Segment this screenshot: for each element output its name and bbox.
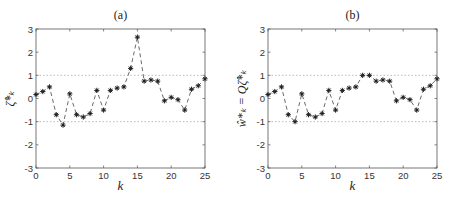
y-tick-label: 1 bbox=[28, 70, 33, 81]
x-tick-label: 10 bbox=[98, 170, 109, 181]
data-point-marker bbox=[333, 107, 338, 112]
figure: 05101520253210-1-2-3(a)kζ̂*ₖ051015202532… bbox=[0, 0, 455, 197]
data-point-marker bbox=[128, 66, 133, 71]
data-point-marker bbox=[340, 88, 345, 93]
y-tick-label: 0 bbox=[28, 93, 33, 104]
data-point-marker bbox=[155, 79, 160, 84]
y-axis-label: ŵ*ₖ = Qζ̂*ₖ bbox=[235, 69, 249, 128]
data-point-marker bbox=[47, 84, 52, 89]
data-point-marker bbox=[162, 98, 167, 103]
x-tick-label: 0 bbox=[265, 170, 270, 181]
data-point-marker bbox=[387, 79, 392, 84]
x-tick-label: 15 bbox=[364, 170, 375, 181]
y-axis-label: ζ̂*ₖ bbox=[3, 90, 17, 107]
chart-title: (b) bbox=[346, 8, 360, 22]
data-point-marker bbox=[135, 35, 140, 40]
data-point-marker bbox=[87, 111, 92, 116]
data-line bbox=[36, 37, 205, 125]
data-point-marker bbox=[115, 85, 120, 90]
data-point-marker bbox=[319, 111, 324, 116]
plot-a: 05101520253210-1-2-3(a)kζ̂*ₖ bbox=[3, 8, 210, 193]
x-tick-label: 5 bbox=[67, 170, 72, 181]
data-point-marker bbox=[306, 112, 311, 117]
x-axis-label: k bbox=[350, 178, 356, 193]
data-point-marker bbox=[394, 98, 399, 103]
data-point-marker bbox=[169, 95, 174, 100]
x-axis-label: k bbox=[118, 178, 124, 193]
y-tick-label: 3 bbox=[28, 24, 33, 35]
y-tick-label: -2 bbox=[257, 139, 265, 150]
data-point-marker bbox=[421, 87, 426, 92]
data-point-marker bbox=[67, 91, 72, 96]
x-tick-label: 25 bbox=[432, 170, 443, 181]
data-point-marker bbox=[326, 88, 331, 93]
data-point-marker bbox=[60, 123, 65, 128]
data-point-marker bbox=[272, 89, 277, 94]
x-tick-label: 20 bbox=[166, 170, 177, 181]
chart-title: (a) bbox=[114, 8, 127, 22]
data-point-marker bbox=[148, 77, 153, 82]
y-tick-label: -1 bbox=[257, 116, 265, 127]
data-point-marker bbox=[182, 107, 187, 112]
y-tick-label: -3 bbox=[257, 163, 265, 174]
plot-b: 05101520253210-1-2-3(b)kŵ*ₖ = Qζ̂*ₖ bbox=[235, 8, 442, 193]
data-point-marker bbox=[74, 112, 79, 117]
data-point-marker bbox=[292, 119, 297, 124]
data-point-marker bbox=[33, 92, 38, 97]
x-tick-label: 15 bbox=[132, 170, 143, 181]
data-point-marker bbox=[414, 107, 419, 112]
x-tick-label: 20 bbox=[398, 170, 409, 181]
x-tick-label: 10 bbox=[330, 170, 341, 181]
data-point-marker bbox=[407, 97, 412, 102]
data-point-marker bbox=[360, 73, 365, 78]
x-tick-label: 0 bbox=[33, 170, 38, 181]
data-point-marker bbox=[279, 84, 284, 89]
data-point-marker bbox=[40, 89, 45, 94]
data-point-marker bbox=[202, 76, 207, 81]
y-tick-label: 3 bbox=[260, 24, 265, 35]
x-tick-label: 25 bbox=[200, 170, 211, 181]
data-point-marker bbox=[428, 83, 433, 88]
chart-a: 05101520253210-1-2-3(a)kζ̂*ₖ051015202532… bbox=[0, 0, 455, 197]
data-point-marker bbox=[94, 88, 99, 93]
data-point-marker bbox=[196, 83, 201, 88]
y-tick-label: 2 bbox=[260, 47, 265, 58]
x-tick-label: 5 bbox=[299, 170, 304, 181]
data-point-marker bbox=[265, 92, 270, 97]
data-point-marker bbox=[299, 91, 304, 96]
data-point-marker bbox=[374, 79, 379, 84]
data-point-marker bbox=[353, 84, 358, 89]
y-tick-label: -2 bbox=[25, 139, 33, 150]
data-point-marker bbox=[286, 112, 291, 117]
data-point-marker bbox=[347, 85, 352, 90]
data-point-marker bbox=[367, 73, 372, 78]
data-point-marker bbox=[401, 95, 406, 100]
y-tick-label: 1 bbox=[260, 70, 265, 81]
data-point-marker bbox=[189, 87, 194, 92]
y-tick-label: 2 bbox=[28, 47, 33, 58]
data-point-marker bbox=[142, 79, 147, 84]
data-point-marker bbox=[175, 97, 180, 102]
data-point-marker bbox=[108, 88, 113, 93]
data-point-marker bbox=[380, 77, 385, 82]
data-point-marker bbox=[121, 84, 126, 89]
y-tick-label: -1 bbox=[25, 116, 33, 127]
y-tick-label: -3 bbox=[25, 163, 33, 174]
data-point-marker bbox=[434, 76, 439, 81]
data-point-marker bbox=[101, 107, 106, 112]
data-point-marker bbox=[54, 112, 59, 117]
data-point-marker bbox=[313, 114, 318, 119]
data-point-marker bbox=[81, 114, 86, 119]
y-tick-label: 0 bbox=[260, 93, 265, 104]
